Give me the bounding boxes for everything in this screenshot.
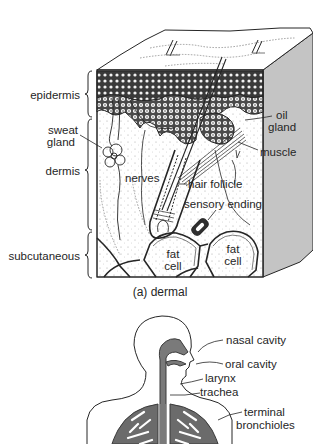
label-dermis: dermis — [20, 165, 80, 177]
label-hair-follicle: hair follicle — [188, 178, 242, 190]
brace-dermis — [85, 119, 92, 230]
brace-epidermis — [85, 71, 92, 117]
label-nerves: nerves — [125, 172, 160, 184]
label-terminal-bronchioles-1: terminal — [244, 406, 285, 418]
label-subcutaneous: subcutaneous — [0, 250, 80, 262]
oral-cavity — [166, 360, 186, 366]
label-oral-cavity: oral cavity — [225, 358, 277, 370]
left-lung — [112, 404, 158, 444]
label-nasal-cavity: nasal cavity — [226, 334, 286, 346]
label-terminal-bronchioles-2: bronchioles — [236, 419, 295, 431]
label-fat-cell-1b: cell — [160, 260, 186, 272]
layer-braces — [85, 71, 92, 278]
diagram-canvas — [0, 0, 313, 444]
label-oil-gland-2: gland — [268, 121, 296, 133]
label-sensory-ending: sensory ending — [184, 198, 262, 210]
label-fat-cell-2b: cell — [220, 255, 246, 267]
right-lung — [170, 404, 218, 444]
label-fat-cell-2a: fat — [220, 243, 246, 255]
label-sweat-gland-2: gland — [30, 136, 75, 148]
brace-subcutaneous — [85, 232, 92, 278]
label-trachea: trachea — [200, 386, 238, 398]
label-muscle: muscle — [260, 146, 296, 158]
caption-panel-a: (a) dermal — [110, 286, 210, 298]
label-epidermis: epidermis — [12, 89, 80, 101]
label-fat-cell-1a: fat — [160, 248, 186, 260]
label-larynx: larynx — [205, 372, 236, 384]
label-sweat-gland-1: sweat — [30, 124, 78, 136]
label-oil-gland-1: oil — [276, 109, 288, 121]
